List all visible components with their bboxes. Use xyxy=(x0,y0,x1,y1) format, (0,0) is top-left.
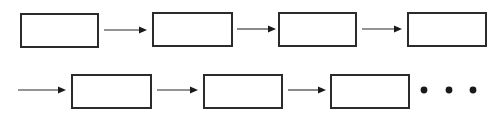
ellipsis-dot-icon xyxy=(446,87,453,94)
flow-node-box[interactable] xyxy=(279,13,356,46)
flow-node-box[interactable] xyxy=(204,75,282,108)
flow-arrow xyxy=(237,25,276,32)
arrow-head-icon xyxy=(394,25,402,32)
flow-arrow xyxy=(18,86,66,93)
flow-node-box[interactable] xyxy=(21,14,98,47)
arrow-head-icon xyxy=(139,26,147,33)
flow-node-box[interactable] xyxy=(408,13,486,46)
arrow-head-icon xyxy=(318,86,326,93)
flow-node-box[interactable] xyxy=(72,75,151,108)
flow-diagram-svg xyxy=(0,0,501,119)
flow-node-box[interactable] xyxy=(153,13,232,46)
arrow-head-icon xyxy=(58,86,66,93)
arrow-head-icon xyxy=(190,86,198,93)
ellipsis-dot-icon xyxy=(470,87,477,94)
ellipsis-dot-icon xyxy=(421,87,428,94)
flow-arrow xyxy=(104,26,147,33)
flow-arrow xyxy=(288,86,326,93)
flow-row xyxy=(21,13,486,47)
flow-diagram-canvas xyxy=(0,0,501,119)
flow-row xyxy=(18,75,476,108)
flow-arrow xyxy=(362,25,402,32)
flow-node-box[interactable] xyxy=(331,75,409,108)
arrow-head-icon xyxy=(268,25,276,32)
flow-arrow xyxy=(157,86,198,93)
